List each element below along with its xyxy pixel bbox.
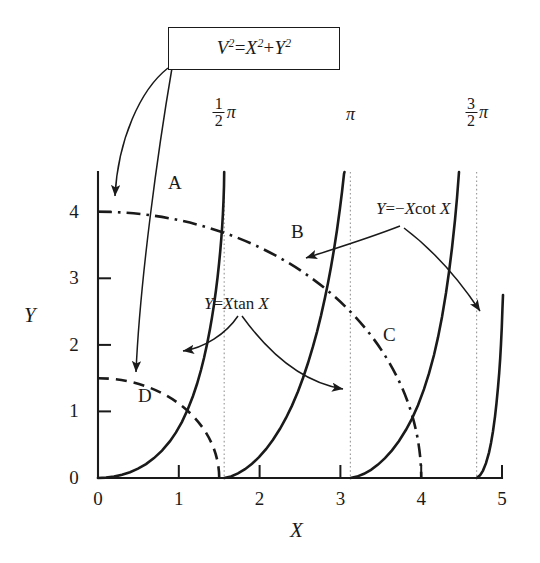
x-tick-label-0: 0 — [86, 489, 110, 508]
curve-minus-x-cot-x-branch-2 — [477, 295, 503, 478]
arrow-tan-label-to-branch-2 — [242, 316, 343, 389]
arrow-cot-label-to-branch-1 — [306, 226, 400, 258]
y-tick-label-2: 2 — [62, 335, 86, 354]
equation-box: V2=X2+Y2 — [168, 27, 340, 70]
figure-root: V2=X2+Y2 1 2 π π 3 2 π 0 1 2 3 4 0 1 2 3… — [0, 0, 540, 563]
equation-text: V2=X2+Y2 — [217, 37, 292, 59]
top-tick-three-half-pi: 3 2 π — [465, 96, 488, 130]
arrow-cot-label-to-branch-2 — [404, 228, 480, 311]
pi-glyph-three-half: π — [479, 102, 488, 123]
y-tick-label-1: 1 — [62, 401, 86, 420]
arrow-box-to-v4-curve — [115, 68, 168, 196]
point-label-d: D — [138, 386, 152, 405]
fraction-one-half: 1 2 — [213, 96, 225, 130]
x-axis-title: X — [290, 520, 303, 541]
fraction-three-halves: 3 2 — [465, 96, 477, 130]
x-tick-label-5: 5 — [490, 489, 514, 508]
x-axis-ticks — [98, 465, 502, 478]
y-tick-label-4: 4 — [62, 202, 86, 221]
pi-glyph: π — [346, 104, 355, 125]
x-tick-label-2: 2 — [248, 489, 272, 508]
cot-function-name: cot — [415, 199, 436, 218]
y-axis-title: Y — [24, 305, 36, 326]
curve-label-x-tan-x: Y=Xtan X — [204, 295, 269, 312]
top-tick-pi: π — [346, 104, 355, 125]
y-axis-ticks — [98, 212, 111, 478]
top-tick-half-pi: 1 2 π — [213, 96, 236, 130]
curve-minus-x-cot-x-branch-1 — [224, 172, 344, 478]
point-label-a: A — [168, 173, 182, 192]
exponent-y: 2 — [285, 37, 291, 50]
x-tick-label-1: 1 — [167, 489, 191, 508]
y-tick-label-0: 0 — [62, 468, 86, 487]
pi-glyph-half: π — [227, 102, 236, 123]
y-tick-label-3: 3 — [62, 268, 86, 287]
point-label-b: B — [291, 222, 304, 241]
point-label-c: C — [383, 325, 396, 344]
arrow-box-to-v1-5-curve — [136, 68, 172, 372]
x-tick-label-3: 3 — [328, 489, 352, 508]
x-tick-label-4: 4 — [409, 489, 433, 508]
curve-circle-v1-5 — [98, 378, 219, 478]
curve-label-minus-x-cot-x: Y=−Xcot X — [376, 200, 450, 217]
tan-function-name: tan — [233, 294, 254, 313]
